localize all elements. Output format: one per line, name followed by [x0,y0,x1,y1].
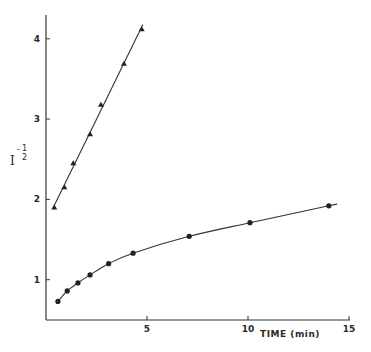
y-tick-label: 2 [34,194,40,204]
triangle-series-fit-line [53,25,142,208]
y-axis-label-sign: - [17,145,20,154]
y-axis-label-base: I [10,154,15,168]
circle-marker [87,272,92,277]
x-tick-label: 15 [343,324,356,334]
triangle-marker [98,102,104,107]
triangle-marker [87,131,93,136]
circle-marker [130,251,135,256]
circle-marker [247,220,252,225]
y-axis-label-num: 1 [22,144,27,153]
y-axis-label: I - 1 2 [10,144,27,168]
circle-marker [326,203,331,208]
x-axis-label: TIME (min) [260,329,320,339]
y-tick-label: 4 [34,34,40,44]
y-ticks: 1234 [34,34,50,285]
circle-marker [187,234,192,239]
x-tick-label: 5 [144,324,150,334]
y-tick-label: 1 [34,275,40,285]
circle-marker [55,299,60,304]
triangle-marker [61,184,67,189]
circle-marker [75,280,80,285]
triangle-marker [139,26,145,31]
x-ticks: 51015 [144,316,355,334]
y-tick-label: 3 [34,114,40,124]
plot-area [51,25,337,304]
circle-marker [106,261,111,266]
triangle-marker [121,61,127,66]
x-tick-label: 10 [242,324,255,334]
triangle-marker [51,204,57,209]
y-axis-label-den: 2 [22,153,27,162]
chart: 51015 1234 TIME (min) I - 1 2 [0,0,371,352]
circle-marker [65,288,70,293]
circle-series-curve [58,204,337,301]
